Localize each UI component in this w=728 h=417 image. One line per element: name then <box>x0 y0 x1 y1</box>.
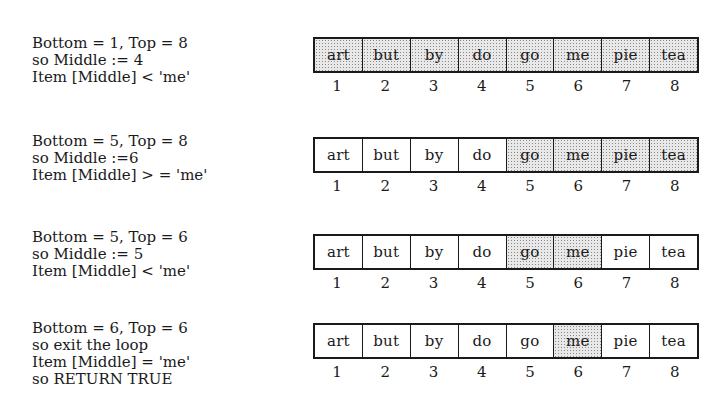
index-label: 5 <box>506 274 554 292</box>
step-text-line: Bottom = 5, Top = 6 <box>32 229 190 246</box>
array-cell: tea <box>650 325 697 357</box>
index-label: 7 <box>603 274 651 292</box>
index-label: 7 <box>603 77 651 95</box>
step-text-line: Bottom = 6, Top = 6 <box>32 320 190 337</box>
step-3-index-labels: 12345678 <box>313 274 699 292</box>
array-cell: by <box>411 139 459 171</box>
step-text-line: Bottom = 5, Top = 8 <box>32 133 207 150</box>
array-cell: by <box>411 236 459 268</box>
index-label: 4 <box>458 363 506 381</box>
index-label: 1 <box>313 274 361 292</box>
step-text-line: so Middle := 5 <box>32 246 190 263</box>
array-cell: art <box>315 325 363 357</box>
array-cell-in-range: go <box>507 236 555 268</box>
array-cell: but <box>363 325 411 357</box>
index-label: 4 <box>458 77 506 95</box>
step-2-index-labels: 12345678 <box>313 177 699 195</box>
array-cell-in-range: do <box>459 39 507 71</box>
step-1-index-labels: 12345678 <box>313 77 699 95</box>
step-4-index-labels: 12345678 <box>313 363 699 381</box>
index-label: 5 <box>506 177 554 195</box>
array-cell-in-range: but <box>363 39 411 71</box>
array-cell: but <box>363 236 411 268</box>
step-text-line: so RETURN TRUE <box>32 371 190 388</box>
step-4-array: artbutbydogomepietea <box>313 323 699 359</box>
array-cell: do <box>459 139 507 171</box>
index-label: 1 <box>313 77 361 95</box>
array-cell: do <box>459 236 507 268</box>
array-cell-in-range: pie <box>602 39 650 71</box>
index-label: 2 <box>361 363 409 381</box>
array-cell-in-range: me <box>554 325 602 357</box>
array-cell: by <box>411 325 459 357</box>
array-cell: art <box>315 236 363 268</box>
array-cell-in-range: go <box>507 39 555 71</box>
step-text-line: Item [Middle] > = 'me' <box>32 167 207 184</box>
step-text-line: so exit the loop <box>32 337 190 354</box>
array-cell-in-range: art <box>315 39 363 71</box>
array-cell-in-range: me <box>554 139 602 171</box>
index-label: 3 <box>410 363 458 381</box>
index-label: 5 <box>506 77 554 95</box>
step-text-line: Item [Middle] < 'me' <box>32 263 190 280</box>
array-cell-in-range: pie <box>602 139 650 171</box>
array-cell: pie <box>602 325 650 357</box>
index-label: 3 <box>410 274 458 292</box>
array-cell: go <box>507 325 555 357</box>
step-2-array: artbutbydogomepietea <box>313 137 699 173</box>
array-cell: but <box>363 139 411 171</box>
step-text-line: so Middle :=6 <box>32 150 207 167</box>
index-label: 2 <box>361 274 409 292</box>
array-cell-in-range: by <box>411 39 459 71</box>
array-cell: pie <box>602 236 650 268</box>
step-text-line: Bottom = 1, Top = 8 <box>32 35 190 52</box>
array-cell-in-range: tea <box>650 139 697 171</box>
index-label: 7 <box>603 177 651 195</box>
index-label: 6 <box>554 77 602 95</box>
step-text-line: Item [Middle] < 'me' <box>32 69 190 86</box>
step-1-description: Bottom = 1, Top = 8so Middle := 4Item [M… <box>32 35 190 86</box>
array-cell-in-range: go <box>507 139 555 171</box>
array-cell: do <box>459 325 507 357</box>
array-cell-in-range: me <box>554 236 602 268</box>
index-label: 8 <box>651 274 699 292</box>
index-label: 1 <box>313 363 361 381</box>
index-label: 3 <box>410 177 458 195</box>
index-label: 6 <box>554 274 602 292</box>
index-label: 8 <box>651 177 699 195</box>
step-3-description: Bottom = 5, Top = 6so Middle := 5Item [M… <box>32 229 190 280</box>
step-3-array: artbutbydogomepietea <box>313 234 699 270</box>
step-text-line: Item [Middle] = 'me' <box>32 354 190 371</box>
step-text-line: so Middle := 4 <box>32 52 190 69</box>
index-label: 2 <box>361 177 409 195</box>
array-cell-in-range: me <box>554 39 602 71</box>
step-2-description: Bottom = 5, Top = 8so Middle :=6Item [Mi… <box>32 133 207 184</box>
index-label: 8 <box>651 77 699 95</box>
index-label: 7 <box>603 363 651 381</box>
index-label: 6 <box>554 177 602 195</box>
index-label: 1 <box>313 177 361 195</box>
step-4-description: Bottom = 6, Top = 6so exit the loopItem … <box>32 320 190 388</box>
index-label: 3 <box>410 77 458 95</box>
index-label: 4 <box>458 274 506 292</box>
step-1-array: artbutbydogomepietea <box>313 37 699 73</box>
index-label: 4 <box>458 177 506 195</box>
array-cell: tea <box>650 236 697 268</box>
index-label: 5 <box>506 363 554 381</box>
array-cell: art <box>315 139 363 171</box>
index-label: 2 <box>361 77 409 95</box>
index-label: 8 <box>651 363 699 381</box>
array-cell-in-range: tea <box>650 39 697 71</box>
index-label: 6 <box>554 363 602 381</box>
